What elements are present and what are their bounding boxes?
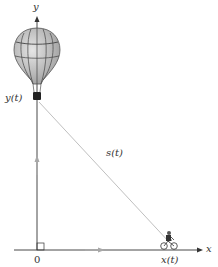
rightward-motion-arrow-icon — [85, 248, 105, 253]
related-rates-diagram — [0, 0, 218, 267]
distance-label: s(t) — [106, 148, 123, 158]
origin-label: 0 — [34, 255, 40, 265]
y-axis-arrow-icon — [35, 16, 40, 22]
x-axis-arrow-icon — [197, 248, 203, 253]
bike-position-label: x(t) — [161, 255, 178, 265]
bicycle-rider-icon — [161, 231, 178, 249]
upward-motion-arrow-icon — [35, 155, 40, 175]
x-axis-label: x — [206, 244, 212, 254]
right-angle-icon — [37, 243, 44, 250]
y-axis-label: y — [33, 2, 39, 12]
distance-line — [39, 102, 170, 243]
balloon-height-label: y(t) — [5, 93, 22, 103]
